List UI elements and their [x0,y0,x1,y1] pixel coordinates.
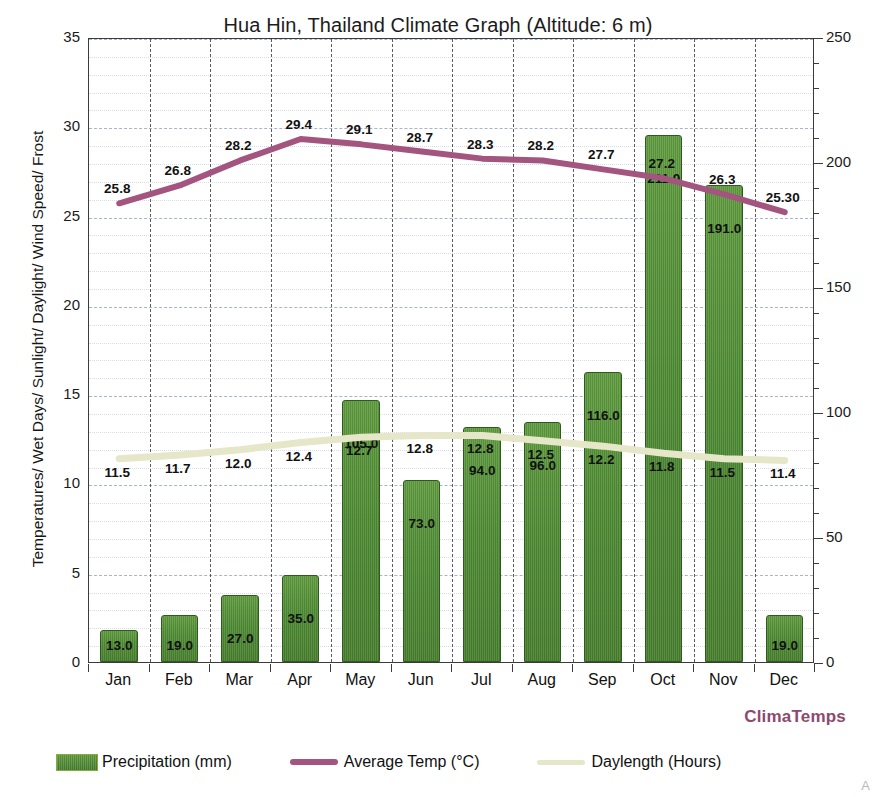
y-axis-right-tick-mark [814,38,823,39]
legend-item[interactable]: Precipitation (mm) [56,753,232,771]
y-axis-right-tick-mark-minor [814,488,819,489]
plot-inner: 13.019.027.035.0105.073.094.096.0116.021… [89,39,813,662]
x-axis-month-label: Sep [588,671,616,689]
y-axis-right-tick-mark-minor [814,388,819,389]
x-axis-month-label: May [345,671,375,689]
y-axis-right-tick-label: 200 [826,153,872,170]
y-axis-right-tick-mark [814,288,823,289]
y-axis-right-tick-mark-minor [814,213,819,214]
y-axis-right-tick-mark-minor [814,513,819,514]
y-axis-right-tick-mark [814,413,823,414]
daylength-point-label: 12.0 [225,456,251,471]
y-axis-right-tick-mark-minor [814,438,819,439]
x-axis-tick-mark [88,664,89,672]
daylength-point-label: 11.8 [649,459,675,474]
x-axis-tick-mark [693,664,694,672]
average-temp-point-label: 28.3 [467,137,493,152]
average-temp-point-label: 26.3 [709,172,735,187]
x-axis-month-label: Nov [709,671,737,689]
x-axis-month-label: Jan [105,671,131,689]
plot-area: 13.019.027.035.0105.073.094.096.0116.021… [88,38,814,663]
y-axis-left-tick-label: 0 [40,653,80,670]
y-axis-right-tick-label: 50 [826,528,872,545]
average-temp-point-label: 27.2 [649,156,675,171]
daylength-point-label: 11.5 [104,465,130,480]
x-axis-tick-mark [633,664,634,672]
x-axis-month-label: Apr [287,671,312,689]
legend-label: Precipitation (mm) [102,753,232,771]
daylength-point-label: 11.4 [770,466,796,481]
x-axis-tick-mark [209,664,210,672]
x-axis-tick-mark [572,664,573,672]
average-temp-point-label: 27.7 [588,147,614,162]
x-axis-tick-mark [451,664,452,672]
y-axis-right-tick-mark-minor [814,63,819,64]
y-axis-right-tick-mark [814,663,823,664]
chart-title: Hua Hin, Thailand Climate Graph (Altitud… [0,14,876,37]
daylength-point-label: 12.4 [286,449,312,464]
y-axis-right-tick-mark-minor [814,113,819,114]
y-axis-left-tick-label: 25 [40,207,80,224]
x-axis-tick-mark [149,664,150,672]
average-temp-point-label: 25.30 [766,190,800,205]
y-axis-left-tick-label: 10 [40,474,80,491]
x-axis-month-label: Mar [225,671,253,689]
y-axis-right-tick-label: 0 [826,653,872,670]
y-axis-right-tick-label: 250 [826,28,872,45]
legend-label: Daylength (Hours) [591,753,721,771]
average-temp-point-label: 28.2 [528,138,554,153]
x-axis-tick-mark [330,664,331,672]
daylength-point-label: 11.5 [709,465,735,480]
legend-label: Average Temp (°C) [344,753,480,771]
daylength-point-label: 12.2 [588,452,614,467]
x-axis-tick-mark [814,664,815,672]
y-axis-left-tick-label: 5 [40,564,80,581]
y-axis-right-tick-mark-minor [814,638,819,639]
average-temp-point-label: 29.4 [286,117,312,132]
average-temp-point-label: 25.8 [104,181,130,196]
y-axis-right-tick-label: 100 [826,403,872,420]
daylength-point-label: 12.7 [346,443,372,458]
legend-swatch-temp-icon [290,759,338,765]
y-axis-right-tick-mark [814,538,823,539]
x-axis-tick-mark [512,664,513,672]
x-axis-month-label: Jul [471,671,491,689]
legend-item[interactable]: Daylength (Hours) [537,753,721,771]
y-axis-left-tick-label: 35 [40,28,80,45]
x-axis-month-label: Jun [408,671,434,689]
legend-item[interactable]: Average Temp (°C) [290,753,480,771]
daylength-point-label: 12.8 [407,441,433,456]
legend-swatch-precipitation-icon [56,754,98,771]
y-axis-right-tick-mark-minor [814,138,819,139]
chart-legend: Precipitation (mm)Average Temp (°C)Dayle… [56,745,836,779]
y-axis-right-tick-mark-minor [814,613,819,614]
daylength-line [119,435,785,460]
x-axis-month-label: Feb [165,671,193,689]
y-axis-right-tick-mark [814,163,823,164]
average-temp-point-label: 28.2 [225,138,251,153]
y-axis-right-tick-mark-minor [814,363,819,364]
y-axis-left-tick-label: 20 [40,296,80,313]
brand-watermark: ClimaTemps [744,707,846,727]
daylength-point-label: 12.5 [528,447,554,462]
x-axis-tick-mark [754,664,755,672]
average-temp-line [119,139,785,212]
y-axis-right-tick-mark-minor [814,563,819,564]
climate-chart-figure: Hua Hin, Thailand Climate Graph (Altitud… [0,0,876,797]
x-axis-tick-mark [391,664,392,672]
x-axis-month-label: Oct [650,671,675,689]
y-axis-right-tick-mark-minor [814,338,819,339]
x-axis-month-label: Dec [770,671,798,689]
daylength-point-label: 12.8 [467,441,493,456]
average-temp-point-label: 28.7 [407,130,433,145]
x-axis-tick-mark [270,664,271,672]
y-axis-right-tick-mark-minor [814,463,819,464]
y-axis-right-tick-mark-minor [814,238,819,239]
y-axis-right-tick-label: 150 [826,278,872,295]
y-axis-right-tick-mark-minor [814,313,819,314]
x-axis-month-label: Aug [528,671,556,689]
line-series-layer [89,39,813,662]
legend-swatch-daylength-icon [537,760,585,765]
average-temp-point-label: 29.1 [346,122,372,137]
y-axis-right-tick-mark-minor [814,188,819,189]
